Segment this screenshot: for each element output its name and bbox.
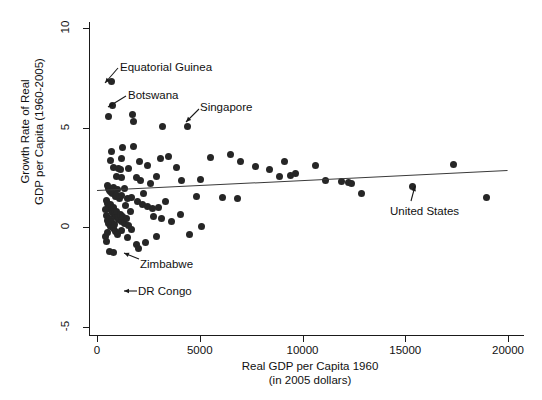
annotation-arrow-zimbabwe — [118, 247, 145, 265]
y-axis-tick — [83, 28, 89, 29]
annotation-arrow-botswana — [102, 90, 132, 113]
annotation-label-zimbabwe: Zimbabwe — [140, 258, 193, 270]
data-point — [252, 163, 259, 170]
data-point — [123, 215, 130, 222]
y-axis-line — [89, 22, 90, 336]
data-point — [155, 204, 162, 211]
data-point — [124, 234, 131, 241]
data-point — [153, 233, 160, 240]
data-point — [292, 170, 299, 177]
data-point — [358, 190, 365, 197]
data-point — [207, 154, 214, 161]
y-axis-tick-label: -5 — [59, 311, 71, 341]
data-point — [111, 221, 118, 228]
x-axis-line — [89, 335, 524, 336]
x-axis-tick-label: 10000 — [273, 344, 333, 356]
data-point — [281, 158, 288, 165]
y-axis-title: Growth Rate of Real GDP per Capita (1960… — [19, 37, 46, 227]
data-point — [168, 218, 175, 225]
annotation-arrow-equatorial-guinea — [99, 62, 124, 89]
annotation-label-dr-congo: DR Congo — [138, 285, 192, 297]
data-point — [136, 158, 143, 165]
data-point — [128, 226, 135, 233]
data-point — [108, 148, 115, 155]
annotation-arrow-dr-congo — [118, 285, 143, 297]
data-point — [147, 180, 154, 187]
data-point — [119, 144, 126, 151]
annotation-label-equatorial-guinea: Equatorial Guinea — [120, 61, 212, 73]
x-axis-tick-label: 0 — [67, 344, 127, 356]
data-point — [130, 118, 137, 125]
x-axis-tick-label: 5000 — [170, 344, 230, 356]
data-point — [118, 227, 125, 234]
data-point — [127, 208, 134, 215]
data-point — [186, 231, 193, 238]
annotation-arrow-singapore — [180, 103, 205, 128]
x-axis-tick — [405, 336, 406, 342]
annotation-label-botswana: Botswana — [128, 89, 179, 101]
y-axis-tick-label: 5 — [59, 112, 71, 142]
data-point — [177, 211, 184, 218]
y-axis-tick-label: 10 — [59, 12, 71, 42]
y-axis-title-line2: GDP per Capita (1960-2005) — [32, 37, 46, 227]
y-axis-tick — [83, 327, 89, 328]
y-axis-tick-label: 0 — [59, 211, 71, 241]
data-point — [219, 194, 226, 201]
data-point — [130, 143, 137, 150]
scatter-plot-figure: -50510 05000100001500020000 Equatorial G… — [0, 0, 542, 400]
data-point — [150, 213, 157, 220]
data-point — [117, 166, 124, 173]
y-axis-tick — [83, 128, 89, 129]
data-point — [153, 173, 160, 180]
data-point — [483, 194, 490, 201]
y-axis-title-line1: Growth Rate of Real — [19, 37, 33, 227]
data-point — [173, 164, 180, 171]
x-axis-tick-label: 20000 — [478, 344, 538, 356]
annotation-arrow-united-states — [405, 180, 421, 207]
data-point — [159, 123, 166, 130]
x-axis-title: Real GDP per Capita 1960 (in 2005 dollar… — [150, 360, 470, 387]
data-point — [110, 249, 117, 256]
annotation-label-singapore: Singapore — [200, 101, 252, 113]
y-axis-tick — [83, 227, 89, 228]
x-axis-tick — [303, 336, 304, 342]
data-point — [157, 155, 164, 162]
data-point — [103, 238, 110, 245]
x-axis-tick — [200, 336, 201, 342]
x-axis-tick — [508, 336, 509, 342]
annotation-label-united-states: United States — [390, 205, 459, 217]
data-point — [104, 229, 111, 236]
data-point — [450, 161, 457, 168]
x-axis-tick-label: 15000 — [375, 344, 435, 356]
x-axis-tick — [97, 336, 98, 342]
x-axis-title-line2: (in 2005 dollars) — [150, 374, 470, 388]
x-axis-title-line1: Real GDP per Capita 1960 — [150, 360, 470, 374]
